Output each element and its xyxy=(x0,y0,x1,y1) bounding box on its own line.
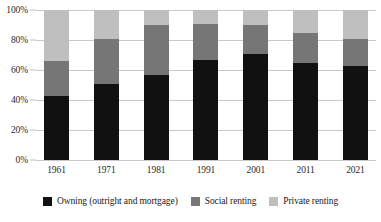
bar-segment[interactable] xyxy=(94,39,119,84)
bars-layer xyxy=(36,10,376,160)
legend-item[interactable]: Owning (outright and mortgage) xyxy=(43,196,178,206)
bar-column[interactable] xyxy=(343,10,368,160)
x-axis-tick-label: 1971 xyxy=(94,161,119,175)
y-axis-tick-label: 60% xyxy=(11,65,28,75)
x-axis-tick-label: 1991 xyxy=(193,161,218,175)
x-axis-tick-label: 2001 xyxy=(243,161,268,175)
legend-item[interactable]: Social renting xyxy=(191,196,257,206)
bar-segment[interactable] xyxy=(293,10,318,33)
bar-segment[interactable] xyxy=(44,10,69,61)
legend-item-label: Social renting xyxy=(205,196,257,206)
bar-column[interactable] xyxy=(94,10,119,160)
bar-segment[interactable] xyxy=(243,25,268,54)
bar-segment[interactable] xyxy=(293,63,318,161)
bar-segment[interactable] xyxy=(94,84,119,161)
y-axis-tick-label: 40% xyxy=(11,95,28,105)
y-axis-tick-label: 100% xyxy=(6,5,28,15)
bar-column[interactable] xyxy=(144,10,169,160)
bar-segment[interactable] xyxy=(293,33,318,63)
bar-segment[interactable] xyxy=(144,25,169,75)
bar-segment[interactable] xyxy=(343,10,368,39)
legend-item-label: Private renting xyxy=(283,196,338,206)
bar-segment[interactable] xyxy=(94,10,119,39)
x-axis-tick-label: 2011 xyxy=(293,161,318,175)
legend-swatch-icon xyxy=(269,197,278,206)
legend-swatch-icon xyxy=(191,197,200,206)
chart-legend: Owning (outright and mortgage)Social ren… xyxy=(0,196,381,206)
bar-segment[interactable] xyxy=(193,24,218,60)
bar-segment[interactable] xyxy=(243,10,268,25)
bar-segment[interactable] xyxy=(193,60,218,161)
y-axis-tick-label: 80% xyxy=(11,35,28,45)
bar-column[interactable] xyxy=(193,10,218,160)
x-axis-tick-label: 1961 xyxy=(44,161,69,175)
bar-segment[interactable] xyxy=(243,54,268,161)
legend-swatch-icon xyxy=(43,197,52,206)
bar-column[interactable] xyxy=(293,10,318,160)
bar-segment[interactable] xyxy=(343,66,368,161)
bar-segment[interactable] xyxy=(144,10,169,25)
y-axis: 0%20%40%60%80%100% xyxy=(0,10,36,160)
plot-area xyxy=(36,10,376,160)
x-axis: 1961197119811991200120112021 xyxy=(36,161,376,179)
bar-segment[interactable] xyxy=(44,96,69,161)
y-axis-tick-label: 0% xyxy=(16,155,28,165)
x-axis-tick-label: 1981 xyxy=(144,161,169,175)
bar-column[interactable] xyxy=(243,10,268,160)
bar-segment[interactable] xyxy=(193,10,218,24)
legend-item-label: Owning (outright and mortgage) xyxy=(57,196,178,206)
x-axis-tick-label: 2021 xyxy=(343,161,368,175)
bar-segment[interactable] xyxy=(44,61,69,96)
legend-item[interactable]: Private renting xyxy=(269,196,338,206)
bar-segment[interactable] xyxy=(144,75,169,161)
stacked-bar-chart: 0%20%40%60%80%100% 196119711981199120012… xyxy=(0,0,381,222)
y-axis-tick-label: 20% xyxy=(11,125,28,135)
bar-segment[interactable] xyxy=(343,39,368,66)
bar-column[interactable] xyxy=(44,10,69,160)
